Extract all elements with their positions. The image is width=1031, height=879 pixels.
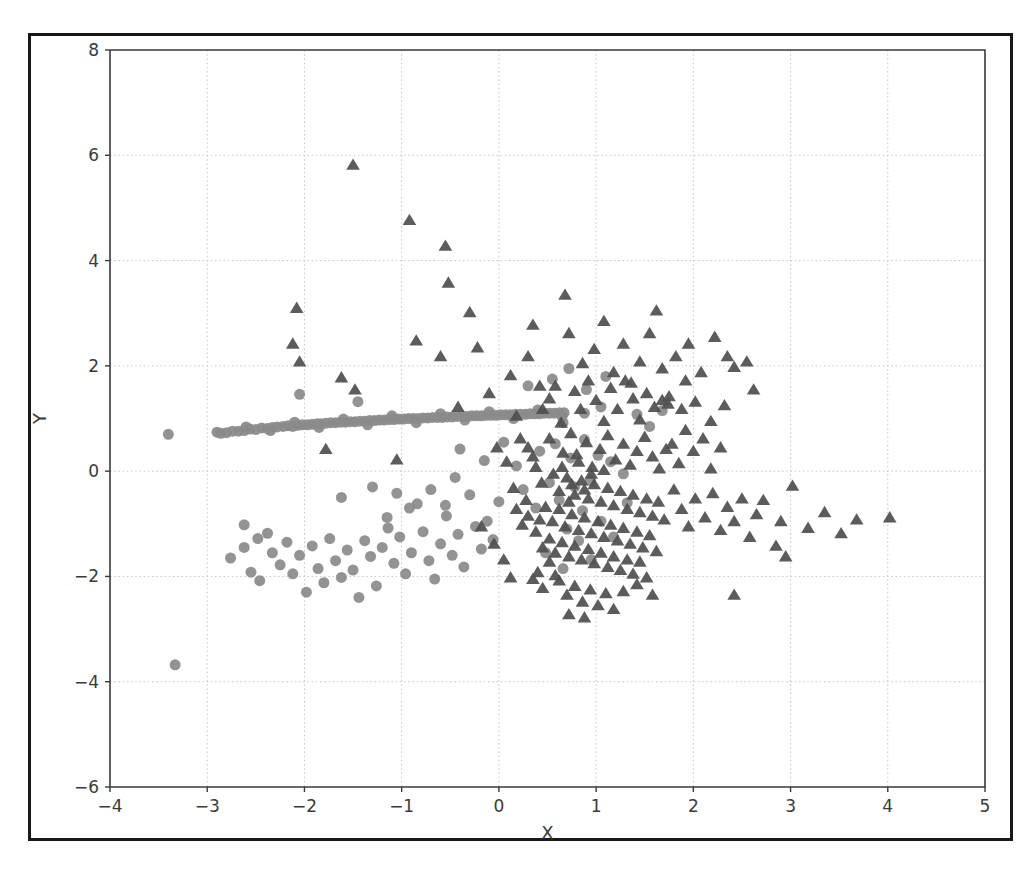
x-tick-label: 4 bbox=[882, 796, 893, 816]
data-point-triangle bbox=[850, 513, 864, 524]
data-point-triangle bbox=[743, 531, 757, 542]
data-point-triangle bbox=[335, 371, 349, 382]
data-point-circle bbox=[418, 526, 429, 537]
data-point-circle bbox=[382, 512, 393, 523]
data-point-circle bbox=[425, 484, 436, 495]
data-point-triangle bbox=[500, 455, 514, 466]
data-point-circle bbox=[342, 545, 353, 556]
data-point-circle bbox=[459, 415, 470, 426]
data-point-triangle bbox=[543, 432, 557, 443]
data-point-triangle bbox=[594, 546, 608, 557]
data-point-triangle bbox=[665, 437, 679, 448]
data-point-triangle bbox=[607, 603, 621, 614]
data-point-circle bbox=[265, 425, 276, 436]
y-axis-label: Y bbox=[29, 412, 50, 425]
data-point-triangle bbox=[409, 334, 423, 345]
series-class-0 bbox=[163, 363, 668, 670]
data-point-circle bbox=[307, 540, 318, 551]
data-point-triangle bbox=[552, 485, 566, 496]
data-point-triangle bbox=[786, 480, 800, 491]
data-point-circle bbox=[563, 363, 574, 374]
data-point-circle bbox=[352, 396, 363, 407]
data-point-triangle bbox=[655, 362, 669, 373]
data-point-triangle bbox=[607, 366, 621, 377]
data-point-circle bbox=[353, 592, 364, 603]
data-point-circle bbox=[365, 551, 376, 562]
data-point-triangle bbox=[650, 545, 664, 556]
data-point-circle bbox=[215, 428, 226, 439]
data-point-circle bbox=[294, 389, 305, 400]
data-point-triangle bbox=[564, 427, 578, 438]
data-point-circle bbox=[336, 572, 347, 583]
data-point-triangle bbox=[526, 318, 540, 329]
data-point-triangle bbox=[543, 392, 557, 403]
data-point-circle bbox=[406, 547, 417, 558]
data-point-triangle bbox=[533, 513, 547, 524]
data-point-triangle bbox=[529, 461, 543, 472]
data-point-circle bbox=[301, 587, 312, 598]
data-point-triangle bbox=[584, 527, 598, 538]
data-point-triangle bbox=[718, 399, 732, 410]
data-point-circle bbox=[450, 472, 461, 483]
data-point-triangle bbox=[403, 214, 417, 225]
data-point-circle bbox=[254, 575, 265, 586]
data-point-triangle bbox=[679, 374, 693, 385]
data-point-circle bbox=[518, 484, 529, 495]
data-point-circle bbox=[241, 421, 252, 432]
x-tick-label: −4 bbox=[97, 796, 122, 816]
data-point-triangle bbox=[601, 561, 615, 572]
data-point-circle bbox=[252, 533, 263, 544]
data-point-circle bbox=[400, 568, 411, 579]
data-point-circle bbox=[245, 567, 256, 578]
data-point-circle bbox=[287, 568, 298, 579]
data-point-triangle bbox=[727, 588, 741, 599]
data-point-triangle bbox=[576, 357, 590, 368]
data-point-triangle bbox=[601, 429, 615, 440]
data-point-triangle bbox=[617, 437, 631, 448]
data-point-circle bbox=[338, 414, 349, 425]
data-point-triangle bbox=[572, 524, 586, 535]
data-point-triangle bbox=[601, 482, 615, 493]
data-point-triangle bbox=[640, 571, 654, 582]
data-point-circle bbox=[455, 444, 466, 455]
data-point-triangle bbox=[694, 366, 708, 377]
data-point-triangle bbox=[558, 288, 572, 299]
data-point-circle bbox=[281, 537, 292, 548]
data-point-triangle bbox=[643, 327, 657, 338]
data-point-triangle bbox=[482, 387, 496, 398]
data-point-circle bbox=[383, 522, 394, 533]
data-point-triangle bbox=[650, 304, 664, 315]
data-point-circle bbox=[458, 561, 469, 572]
data-point-triangle bbox=[682, 337, 696, 348]
data-point-triangle bbox=[769, 540, 783, 551]
data-point-circle bbox=[330, 555, 341, 566]
data-point-triangle bbox=[589, 394, 603, 405]
data-point-circle bbox=[318, 577, 329, 588]
data-point-circle bbox=[441, 510, 452, 521]
data-point-circle bbox=[484, 406, 495, 417]
x-tick-label: 2 bbox=[688, 796, 699, 816]
data-point-triangle bbox=[562, 608, 576, 619]
data-point-triangle bbox=[669, 350, 683, 361]
data-point-circle bbox=[371, 580, 382, 591]
data-point-circle bbox=[453, 529, 464, 540]
data-point-circle bbox=[324, 533, 335, 544]
data-point-circle bbox=[447, 550, 458, 561]
data-point-circle bbox=[359, 535, 370, 546]
data-point-triangle bbox=[706, 487, 720, 498]
data-point-triangle bbox=[568, 385, 582, 396]
scatter-plot-figure: −4−3−2−1012345−6−4−202468XY bbox=[0, 0, 1031, 879]
data-point-triangle bbox=[652, 495, 666, 506]
axis-spines bbox=[110, 50, 985, 787]
data-point-circle bbox=[239, 542, 250, 553]
data-point-triangle bbox=[740, 355, 754, 366]
data-point-circle bbox=[558, 563, 569, 574]
x-tick-label: −3 bbox=[195, 796, 220, 816]
data-point-triangle bbox=[721, 350, 735, 361]
y-tick-label: 8 bbox=[88, 40, 99, 60]
data-point-circle bbox=[644, 421, 655, 432]
x-tick-label: 1 bbox=[591, 796, 602, 816]
data-point-circle bbox=[423, 555, 434, 566]
data-point-triangle bbox=[704, 462, 718, 473]
data-point-triangle bbox=[513, 432, 527, 443]
